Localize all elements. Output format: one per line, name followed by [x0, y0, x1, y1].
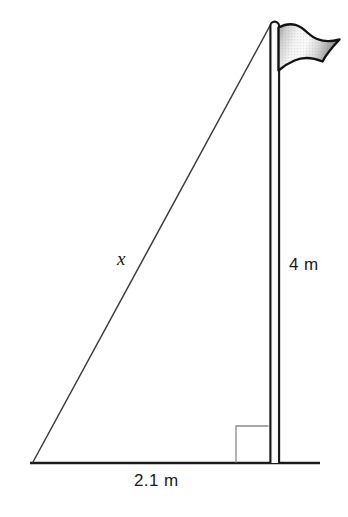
hypotenuse-label: x	[117, 249, 125, 268]
right-angle-marker	[236, 426, 269, 463]
vertical-side-label: 4 m	[289, 256, 319, 273]
horizontal-side-label: 2.1 m	[134, 472, 179, 489]
flag	[279, 24, 340, 70]
flagpole-triangle-figure: x 4 m 2.1 m	[0, 0, 348, 517]
hypotenuse-line	[33, 23, 272, 462]
flagpole	[270, 22, 279, 463]
